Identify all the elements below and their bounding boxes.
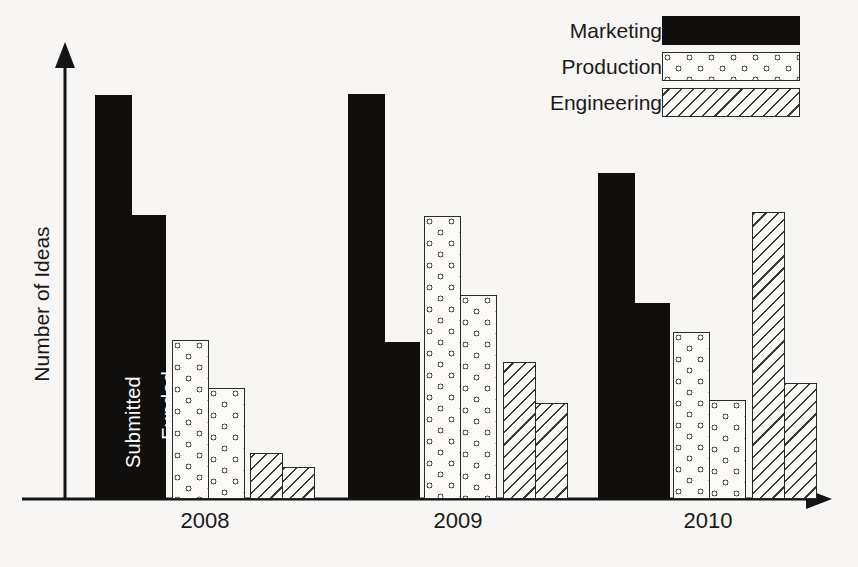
- bar-chart-figure: Number of Ideas Submitted Funded 2008 20…: [0, 0, 858, 567]
- legend-swatch-production: [662, 52, 800, 81]
- legend-label-production: Production: [562, 55, 662, 79]
- bar-2009-marketing-funded: [384, 342, 420, 499]
- bar-2010-production-funded: [709, 400, 746, 499]
- inline-label-submitted: Submitted: [122, 376, 145, 468]
- bar-2008-engineering-funded: [282, 467, 315, 499]
- bar-2010-marketing-submitted: [598, 173, 635, 499]
- legend-swatch-marketing: [662, 16, 800, 45]
- bar-2009-production-funded: [460, 295, 497, 499]
- bar-2009-engineering-submitted: [503, 362, 536, 499]
- bar-2010-engineering-funded: [784, 383, 817, 499]
- legend-item-engineering: Engineering: [520, 88, 810, 120]
- x-tick-label-2010: 2010: [648, 508, 768, 534]
- x-tick-label-2009: 2009: [398, 508, 518, 534]
- legend-label-marketing: Marketing: [570, 19, 662, 43]
- bar-2008-production-submitted: [172, 340, 209, 499]
- bar-2009-engineering-funded: [535, 403, 568, 499]
- bar-2009-marketing-submitted: [348, 94, 385, 499]
- y-axis-arrowhead: [55, 42, 75, 68]
- bar-2008-engineering-submitted: [250, 453, 283, 499]
- bar-2010-engineering-submitted: [752, 212, 785, 499]
- legend-item-marketing: Marketing: [520, 16, 810, 48]
- bar-2010-production-submitted: [673, 332, 710, 499]
- legend-item-production: Production: [520, 52, 810, 84]
- x-tick-label-2008: 2008: [145, 508, 265, 534]
- bar-2010-marketing-funded: [634, 303, 670, 499]
- bar-2008-production-funded: [208, 388, 245, 499]
- legend-label-engineering: Engineering: [550, 91, 662, 115]
- legend-swatch-engineering: [662, 88, 800, 117]
- y-axis-title: Number of Ideas: [30, 184, 54, 424]
- chart-legend: Marketing Production Engineering: [520, 16, 810, 124]
- bar-2009-production-submitted: [424, 216, 461, 499]
